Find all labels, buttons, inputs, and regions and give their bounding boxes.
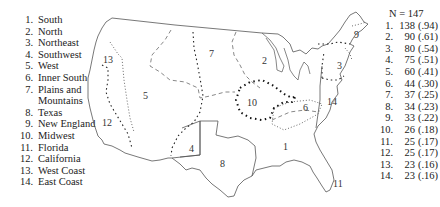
count-row: 14.23(.16) bbox=[377, 170, 438, 182]
count-row: 7.37(.25) bbox=[377, 89, 438, 101]
region-label-midwest: 10 bbox=[247, 97, 257, 108]
count-row: 9.33(.22) bbox=[377, 112, 438, 124]
new-england-dotted-2 bbox=[345, 48, 352, 60]
northeast-beaded bbox=[318, 42, 350, 80]
region-label-south: 1 bbox=[283, 141, 288, 152]
region-label-east-coast: 14 bbox=[327, 96, 337, 107]
sample-size: N = 147 bbox=[377, 8, 438, 20]
count-row: 3.80(.54) bbox=[377, 43, 438, 55]
region-label-southwest: 4 bbox=[189, 143, 194, 154]
east-coast-line bbox=[316, 66, 322, 128]
region-label-inner-south: 6 bbox=[303, 102, 308, 113]
region-label-plains: 7 bbox=[209, 48, 214, 59]
region-label-florida: 11 bbox=[333, 178, 343, 189]
region-label-west-coast: 13 bbox=[103, 54, 113, 65]
us-outline bbox=[88, 12, 368, 197]
plains-boundary-dashed-2 bbox=[232, 32, 260, 88]
plains-boundary-dashed bbox=[150, 30, 235, 98]
count-row: 8.34(.23) bbox=[377, 101, 438, 113]
west-coast-dotted bbox=[110, 42, 134, 132]
count-row: 4.75(.51) bbox=[377, 54, 438, 66]
count-row: 12.25(.17) bbox=[377, 147, 438, 159]
midwest-boundary bbox=[236, 80, 296, 120]
count-row: 1.138(.94) bbox=[377, 20, 438, 32]
region-label-northeast: 3 bbox=[337, 60, 342, 71]
count-row: 11.25(.17) bbox=[377, 136, 438, 148]
count-row: 6.44(.30) bbox=[377, 78, 438, 90]
count-row: 5.60(.41) bbox=[377, 66, 438, 78]
region-label-new-england: 9 bbox=[354, 29, 359, 40]
region-counts-table: N = 147 1.138(.94) 2.90(.61) 3.80(.54) 4… bbox=[377, 8, 438, 182]
inner-south-boundary bbox=[272, 100, 322, 130]
inner-south-dashed bbox=[272, 110, 318, 120]
plains-boundary-beaded bbox=[171, 32, 203, 156]
region-label-north: 2 bbox=[262, 55, 267, 66]
count-row: 10.26(.18) bbox=[377, 124, 438, 136]
count-row: 2.90(.61) bbox=[377, 31, 438, 43]
new-england-dotted bbox=[352, 22, 366, 26]
count-row: 13.23(.16) bbox=[377, 159, 438, 171]
us-regions-map: 1 2 3 4 5 6 7 8 9 10 11 12 13 14 bbox=[0, 0, 440, 207]
region-label-california: 12 bbox=[102, 117, 112, 128]
region-label-west: 5 bbox=[143, 90, 148, 101]
region-label-texas: 8 bbox=[220, 158, 225, 169]
west-coast-beaded bbox=[102, 65, 132, 148]
